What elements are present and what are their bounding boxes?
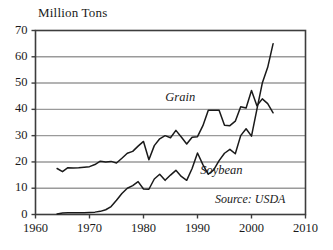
y-axis-tick-label: 30 <box>2 128 28 143</box>
series-label-soybean: Soybean <box>200 163 242 178</box>
x-axis-tick-label: 1980 <box>124 221 164 236</box>
y-axis-tick-label: 40 <box>2 101 28 116</box>
x-axis-tick-label: 2010 <box>286 221 326 236</box>
y-axis-tick-label: 10 <box>2 180 28 195</box>
source-attribution: Source: USDA <box>215 192 286 207</box>
chart-plot-area <box>0 0 333 250</box>
y-axis-tick-label: 50 <box>2 75 28 90</box>
plot-frame <box>36 31 306 215</box>
x-axis-tick-label: 1960 <box>16 221 56 236</box>
y-axis-tick-label: 20 <box>2 154 28 169</box>
chart-container: Million Tons 010203040506070196019701980… <box>0 0 333 250</box>
y-axis-tick-label: 70 <box>2 23 28 38</box>
y-axis-tick-label: 60 <box>2 49 28 64</box>
x-axis-tick-label: 2000 <box>232 221 272 236</box>
y-axis-tick-label: 0 <box>2 207 28 222</box>
x-axis-tick-label: 1970 <box>70 221 110 236</box>
x-axis-tick-label: 1990 <box>178 221 218 236</box>
series-label-grain: Grain <box>165 90 195 105</box>
